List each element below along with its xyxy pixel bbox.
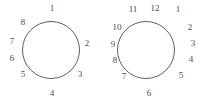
left-circle-label-7: 7 (10, 37, 15, 46)
right-circle-figure: 12 1 2 3 4 5 6 7 8 9 10 11 (100, 0, 201, 101)
left-circle-label-3: 3 (78, 70, 83, 79)
right-circle-label-12: 12 (151, 4, 160, 13)
left-circle-label-5: 5 (21, 70, 26, 79)
right-circle-label-7: 7 (122, 72, 127, 81)
right-circle-label-10: 10 (113, 23, 122, 32)
left-circle-label-6: 6 (10, 54, 15, 63)
left-circle-label-4: 4 (50, 89, 55, 98)
left-circle-label-1: 1 (50, 4, 55, 13)
left-circle-label-2: 2 (85, 39, 90, 48)
right-circle-label-9: 9 (111, 40, 116, 49)
right-circle-label-1: 1 (176, 5, 181, 14)
left-circle-figure: 1 2 3 4 5 6 7 8 (0, 0, 101, 101)
right-circle-label-5: 5 (179, 71, 184, 80)
left-circle-outline (22, 21, 80, 79)
diagram-canvas: 1 2 3 4 5 6 7 8 12 1 2 3 4 5 6 7 8 9 10 … (0, 0, 201, 101)
right-circle-label-8: 8 (113, 56, 118, 65)
right-circle-label-11: 11 (129, 5, 138, 14)
left-circle-label-8: 8 (21, 18, 26, 27)
right-circle-label-3: 3 (191, 39, 196, 48)
right-circle-label-4: 4 (189, 55, 194, 64)
right-circle-label-2: 2 (188, 23, 193, 32)
right-circle-label-6: 6 (147, 89, 152, 98)
